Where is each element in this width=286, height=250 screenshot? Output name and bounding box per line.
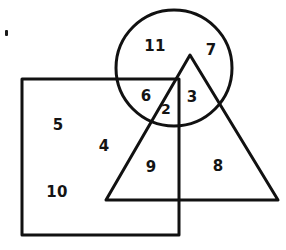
region-label-3: 3 bbox=[187, 90, 198, 105]
venn-diagram-figure: 11 7 6 2 3 5 4 9 8 10 bbox=[0, 0, 286, 250]
region-label-4: 4 bbox=[99, 139, 110, 154]
triangle-shape bbox=[106, 55, 278, 200]
region-label-2: 2 bbox=[161, 102, 171, 116]
region-label-10: 10 bbox=[46, 185, 67, 200]
region-label-5: 5 bbox=[53, 118, 64, 133]
circle-shape bbox=[116, 10, 232, 126]
region-label-11: 11 bbox=[144, 39, 165, 54]
shapes-canvas bbox=[0, 0, 286, 250]
region-label-6: 6 bbox=[141, 89, 152, 104]
ink-speck bbox=[5, 30, 8, 36]
region-label-7: 7 bbox=[206, 43, 217, 58]
region-label-9: 9 bbox=[146, 160, 157, 175]
region-label-8: 8 bbox=[213, 159, 224, 174]
